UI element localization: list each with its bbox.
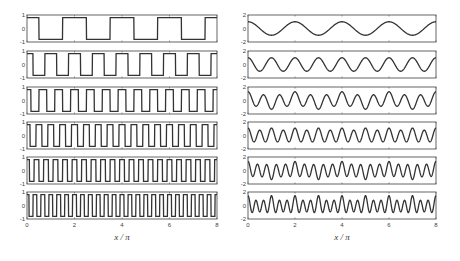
- y-tick-label: 1: [22, 154, 26, 160]
- y-tick-label: 2: [243, 119, 247, 125]
- signal-line: [248, 161, 436, 179]
- right-x-axis-label: x / π: [333, 232, 350, 242]
- x-tick-label: 4: [120, 222, 124, 228]
- y-tick-label: 0: [22, 203, 26, 209]
- signal-line: [27, 125, 217, 147]
- y-tick-label: 0: [243, 168, 247, 174]
- y-tick-label: 1: [22, 119, 26, 125]
- subplot-2: 10-1: [20, 48, 217, 81]
- subplot-3: 10-1: [20, 84, 217, 117]
- subplot-6: 20-202468: [241, 189, 439, 228]
- axes-frame: [27, 192, 217, 219]
- y-tick-label: 0: [243, 98, 247, 104]
- y-tick-label: 0: [243, 62, 247, 68]
- y-tick-label: -2: [241, 181, 247, 187]
- y-tick-label: 2: [243, 189, 247, 195]
- subplot-5: 20-2: [241, 154, 436, 187]
- y-tick-label: 0: [22, 168, 26, 174]
- x-tick-label: 8: [215, 222, 219, 228]
- subplot-6: 10-102468: [20, 189, 220, 228]
- figure: 10-110-110-110-110-110-102468 20-220-220…: [0, 0, 460, 261]
- signal-line: [248, 92, 436, 110]
- y-tick-label: 0: [22, 98, 26, 104]
- axes-frame: [27, 122, 217, 149]
- y-tick-label: 2: [243, 12, 247, 18]
- y-tick-label: -1: [20, 75, 26, 81]
- signal-line: [27, 160, 217, 182]
- subplot-4: 20-2: [241, 119, 436, 152]
- right-column-sinusoids: 20-220-220-220-220-220-202468: [241, 12, 439, 228]
- y-tick-label: 1: [22, 12, 26, 18]
- x-tick-label: 8: [434, 222, 438, 228]
- y-tick-label: -1: [20, 181, 26, 187]
- axes-frame: [27, 15, 217, 42]
- axes-frame: [248, 51, 436, 78]
- signal-line: [248, 128, 436, 142]
- x-tick-label: 0: [246, 222, 250, 228]
- subplot-2: 20-2: [241, 48, 436, 81]
- x-tick-label: 4: [340, 222, 344, 228]
- axes-frame: [248, 15, 436, 42]
- x-tick-label: 6: [168, 222, 172, 228]
- signal-line: [248, 196, 436, 213]
- y-tick-label: 0: [22, 133, 26, 139]
- left-x-axis-label: x / π: [113, 232, 130, 242]
- y-tick-label: 2: [243, 154, 247, 160]
- y-tick-label: 2: [243, 48, 247, 54]
- signal-line: [27, 54, 217, 76]
- subplot-1: 20-2: [241, 12, 436, 45]
- signal-line: [27, 195, 217, 217]
- subplot-5: 10-1: [20, 154, 217, 187]
- axes-frame: [27, 51, 217, 78]
- y-tick-label: -1: [20, 111, 26, 117]
- left-column-square-waves: 10-110-110-110-110-110-102468: [20, 12, 220, 228]
- y-tick-label: 1: [22, 84, 26, 90]
- y-tick-label: -1: [20, 39, 26, 45]
- signal-line: [27, 18, 217, 40]
- subplot-1: 10-1: [20, 12, 217, 45]
- y-tick-label: -2: [241, 39, 247, 45]
- signal-line: [27, 90, 217, 112]
- axes-frame: [248, 122, 436, 149]
- y-tick-label: 0: [243, 203, 247, 209]
- y-tick-label: 0: [22, 26, 26, 32]
- y-tick-label: -1: [20, 146, 26, 152]
- subplot-4: 10-1: [20, 119, 217, 152]
- x-tick-label: 6: [387, 222, 391, 228]
- y-tick-label: 1: [22, 48, 26, 54]
- subplot-3: 20-2: [241, 84, 436, 117]
- x-tick-label: 0: [25, 222, 29, 228]
- y-tick-label: -2: [241, 146, 247, 152]
- axes-frame: [27, 157, 217, 184]
- y-tick-label: 2: [243, 84, 247, 90]
- x-tick-label: 2: [293, 222, 297, 228]
- x-tick-label: 2: [73, 222, 77, 228]
- y-tick-label: -2: [241, 111, 247, 117]
- y-tick-label: 0: [22, 62, 26, 68]
- signal-line: [248, 22, 436, 36]
- y-tick-label: 0: [243, 26, 247, 32]
- y-tick-label: -2: [241, 75, 247, 81]
- y-tick-label: 0: [243, 133, 247, 139]
- y-tick-label: 1: [22, 189, 26, 195]
- signal-line: [248, 58, 436, 72]
